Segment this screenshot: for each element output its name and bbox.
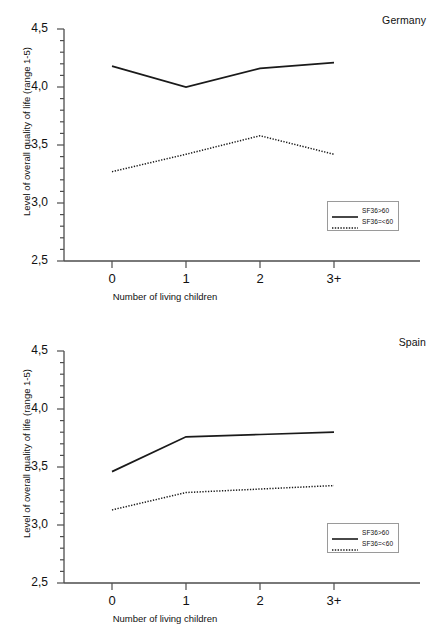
x-tick-label: 0 — [92, 271, 132, 286]
legend-row: SF36>60 — [332, 205, 393, 216]
y-tick-label: 4,5 — [8, 343, 48, 357]
legend-spain: SF36>60 SF36=<60 — [327, 523, 399, 553]
legend-swatch-solid — [332, 529, 358, 537]
y-tick-label: 3,0 — [8, 517, 48, 531]
figure-page: Germany Level of overall quality of life… — [0, 0, 436, 636]
x-tick-label: 3+ — [314, 593, 354, 608]
x-tick-label: 2 — [240, 593, 280, 608]
legend-row: SF36>60 — [332, 527, 393, 538]
series-line-sf36-low — [112, 486, 334, 510]
x-tick-label: 1 — [166, 271, 206, 286]
y-tick-label: 4,0 — [8, 401, 48, 415]
series-line-sf36-high — [112, 432, 334, 471]
y-tick-label: 2,5 — [8, 253, 48, 267]
legend-swatch-dotted — [332, 218, 358, 226]
legend-germany: SF36>60 SF36=<60 — [327, 201, 399, 231]
legend-swatch-solid — [332, 207, 358, 215]
x-tick-label: 0 — [92, 593, 132, 608]
series-line-sf36-high — [112, 63, 334, 87]
plot-area-germany — [0, 8, 436, 314]
y-tick-label: 4,0 — [8, 79, 48, 93]
x-tick-label: 2 — [240, 271, 280, 286]
y-tick-label: 4,5 — [8, 21, 48, 35]
y-tick-label: 3,0 — [8, 195, 48, 209]
y-tick-label: 3,5 — [8, 459, 48, 473]
y-tick-label: 2,5 — [8, 575, 48, 589]
chart-panel-spain: Spain Level of overall quality of life (… — [0, 330, 436, 636]
legend-label-sf36-low: SF36=<60 — [362, 218, 393, 225]
plot-area-spain — [0, 330, 436, 636]
legend-label-sf36-low: SF36=<60 — [362, 540, 393, 547]
series-line-sf36-low — [112, 136, 334, 172]
x-tick-label: 1 — [166, 593, 206, 608]
legend-label-sf36-high: SF36>60 — [362, 529, 389, 536]
x-tick-label: 3+ — [314, 271, 354, 286]
chart-panel-germany: Germany Level of overall quality of life… — [0, 8, 436, 314]
legend-label-sf36-high: SF36>60 — [362, 207, 389, 214]
legend-row: SF36=<60 — [332, 216, 393, 227]
y-tick-label: 3,5 — [8, 137, 48, 151]
legend-swatch-dotted — [332, 540, 358, 548]
legend-row: SF36=<60 — [332, 538, 393, 549]
